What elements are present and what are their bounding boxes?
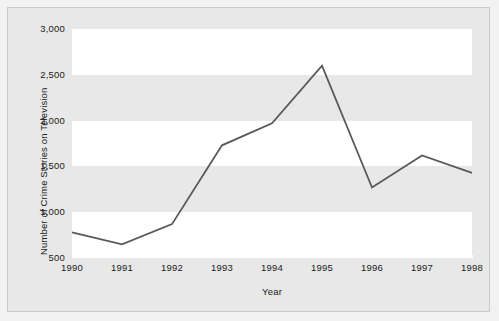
chart-figure: Number of Crime Stories on Television 50… bbox=[0, 0, 499, 321]
x-axis-tick-mark bbox=[272, 255, 273, 259]
x-axis-tick-label: 1998 bbox=[442, 262, 499, 273]
series-line-layer bbox=[72, 29, 472, 258]
x-axis-title: Year bbox=[72, 286, 472, 297]
y-axis-tick-label: 3,000 bbox=[0, 23, 65, 34]
y-axis-tick-label: 2,000 bbox=[0, 115, 65, 126]
x-axis-tick-mark bbox=[472, 255, 473, 259]
line-series-crime-stories bbox=[72, 66, 472, 245]
y-axis-tick-label: 1,500 bbox=[0, 160, 65, 171]
x-axis-tick-mark bbox=[122, 255, 123, 259]
y-axis-tick-label: 1,000 bbox=[0, 206, 65, 217]
x-axis-tick-mark bbox=[172, 255, 173, 259]
plot-area bbox=[72, 29, 472, 258]
x-axis-tick-mark bbox=[372, 255, 373, 259]
x-axis-tick-mark bbox=[222, 255, 223, 259]
y-axis-tick-label: 2,500 bbox=[0, 69, 65, 80]
x-axis-tick-mark bbox=[322, 255, 323, 259]
x-axis-tick-mark bbox=[72, 255, 73, 259]
x-axis-tick-mark bbox=[422, 255, 423, 259]
